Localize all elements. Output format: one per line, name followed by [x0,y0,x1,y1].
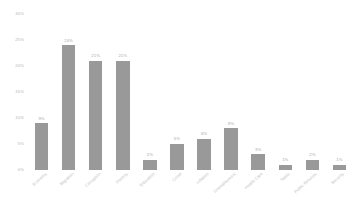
bar-value-label: 3% [255,148,261,152]
bar-value-label: 5% [174,137,180,141]
bar-slot: 1% [333,14,347,170]
x-tick-label: Migration [59,172,75,187]
x-tick-label: Economy [32,172,48,187]
x-tick-label: Poverty [115,172,128,185]
bar-value-label: 21% [118,54,127,58]
x-tick-label: Health Care [245,172,264,190]
bar-slot: 21% [116,14,130,170]
x-tick-label: Taxes [280,172,291,182]
x-tick-label: Security [331,172,345,185]
bar-value-label: 2% [309,153,315,157]
x-tick-label: Unemployment [213,172,237,194]
x-tick-label: Corruption [84,172,101,188]
y-tick-label: 20% [15,64,24,68]
bar-slot: 24% [62,14,76,170]
y-tick-label: 25% [15,38,24,42]
bar-value-label: 9% [38,117,44,121]
bar-slot: 6% [197,14,211,170]
plot-area: 9%24%21%21%2%5%6%8%3%1%2%1% [28,14,353,170]
bar-value-label: 1% [282,158,288,162]
bar-slot: 8% [224,14,238,170]
bar[interactable] [62,45,76,170]
y-tick-label: 30% [15,12,24,16]
bar[interactable] [251,154,265,170]
bar-slot: 5% [170,14,184,170]
bar-value-label: 8% [228,122,234,126]
bar-value-label: 2% [147,153,153,157]
bar-slot: 2% [143,14,157,170]
bar-value-label: 1% [336,158,342,162]
bar[interactable] [35,123,49,170]
bar-value-label: 24% [64,39,73,43]
bar-slot: 2% [306,14,320,170]
bar-slot: 21% [89,14,103,170]
bar[interactable] [224,128,238,170]
bar-slot: 3% [251,14,265,170]
bar[interactable] [143,160,157,170]
bar[interactable] [170,144,184,170]
y-tick-label: 0% [18,168,24,172]
x-tick-label: Education [139,172,156,188]
bar[interactable] [197,139,211,170]
x-axis: EconomyMigrationCorruptionPovertyEducati… [28,170,353,213]
x-tick-label: Public Services [294,172,318,194]
y-tick-label: 5% [18,142,24,146]
bar[interactable] [116,61,130,170]
bar-slot: 1% [279,14,293,170]
bar[interactable] [306,160,320,170]
bar-chart: 0%5%10%15%20%25%30% 9%24%21%21%2%5%6%8%3… [0,0,357,213]
bar-value-label: 6% [201,132,207,136]
bar[interactable] [89,61,103,170]
bar-slot: 9% [35,14,49,170]
y-tick-label: 10% [15,116,24,120]
y-tick-label: 15% [15,90,24,94]
bar-value-label: 21% [91,54,100,58]
x-tick-label: Crime [172,172,183,183]
y-axis: 0%5%10%15%20%25%30% [0,14,28,170]
x-tick-label: Inflation [196,172,210,185]
